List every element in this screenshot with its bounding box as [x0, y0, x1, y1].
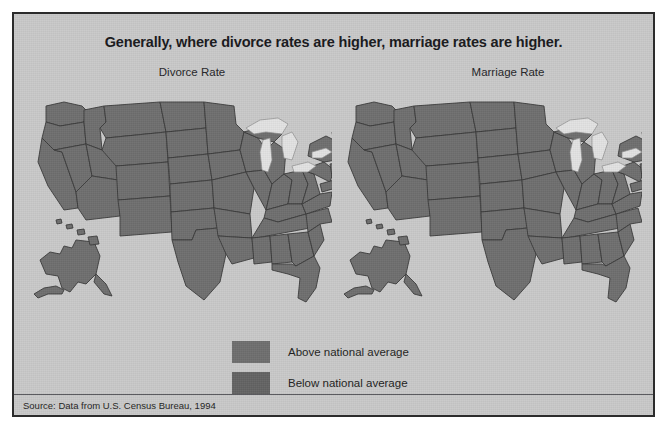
- legend-swatch-below: [232, 372, 270, 394]
- page-title: Generally, where divorce rates are highe…: [14, 34, 653, 50]
- state-wyoming: [412, 132, 478, 166]
- state-minnesota: [514, 102, 554, 154]
- state-nebraska: [168, 154, 212, 184]
- state-hawaii-bigisland: [398, 236, 409, 245]
- state-new-mexico: [118, 196, 172, 236]
- state-colorado: [116, 162, 170, 200]
- state-mississippi: [562, 236, 582, 264]
- state-missouri: [212, 172, 254, 214]
- source-divider: [14, 394, 653, 395]
- state-hawaii-kauai: [366, 219, 372, 224]
- state-minnesota: [204, 102, 244, 154]
- us-map-marriage-svg: [330, 88, 642, 328]
- figure-panel: Generally, where divorce rates are highe…: [12, 12, 655, 417]
- state-north-dakota: [160, 102, 206, 132]
- lake-superior: [246, 118, 288, 134]
- state-hawaii-oahu: [66, 224, 73, 229]
- state-alaska: [350, 240, 410, 292]
- state-alaska: [40, 240, 100, 292]
- state-kansas: [170, 180, 214, 212]
- legend: Above national average Below national av…: [232, 336, 532, 398]
- state-maryland: [630, 180, 642, 192]
- map-caption-divorce: Divorce Rate: [102, 66, 282, 78]
- state-kansas: [480, 180, 524, 212]
- state-new-mexico: [428, 196, 482, 236]
- lake-huron: [592, 132, 608, 160]
- alaska-panhandle: [404, 274, 422, 296]
- map-divorce-rate: [20, 88, 332, 328]
- state-hawaii-maui: [77, 229, 85, 235]
- state-missouri: [522, 172, 564, 214]
- state-south-dakota: [166, 128, 208, 158]
- state-hawaii-kauai: [56, 219, 62, 224]
- state-hawaii-maui: [387, 229, 395, 235]
- state-hawaii-oahu: [376, 224, 383, 229]
- state-mississippi: [252, 236, 272, 264]
- lake-superior: [556, 118, 598, 134]
- state-hawaii-bigisland: [88, 236, 99, 245]
- alaska-aleutians: [344, 286, 374, 298]
- alaska-panhandle: [94, 274, 112, 296]
- lake-huron: [282, 132, 298, 160]
- legend-item-above: Above national average: [232, 336, 532, 367]
- state-south-dakota: [476, 128, 518, 158]
- map-marriage-rate: [330, 88, 642, 328]
- state-wyoming: [102, 132, 168, 166]
- state-nebraska: [478, 154, 522, 184]
- legend-label-below: Below national average: [288, 377, 408, 389]
- us-map-divorce-svg: [20, 88, 332, 328]
- map-caption-marriage: Marriage Rate: [418, 66, 598, 78]
- legend-swatch-above: [232, 341, 270, 363]
- alaska-aleutians: [34, 286, 64, 298]
- legend-label-above: Above national average: [288, 346, 409, 358]
- state-north-dakota: [470, 102, 516, 132]
- state-colorado: [426, 162, 480, 200]
- source-note: Source: Data from U.S. Census Bureau, 19…: [23, 400, 216, 411]
